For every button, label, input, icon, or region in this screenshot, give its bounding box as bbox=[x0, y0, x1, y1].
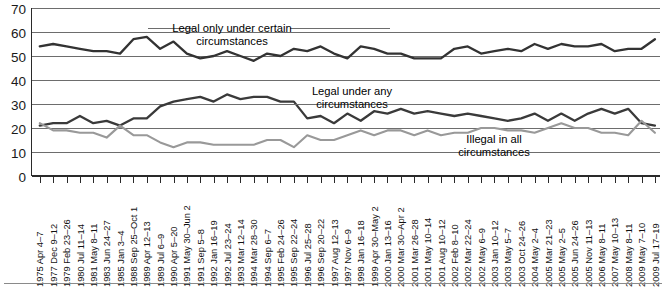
x-axis-tick-label: 1993 Mar 12–14 bbox=[236, 219, 246, 287]
x-axis-tick-label: 2002 May 6–9 bbox=[477, 228, 487, 287]
x-axis-tick-label: 2008 May 8–11 bbox=[624, 224, 634, 287]
x-axis-tick-label: 1994 Mar 28–30 bbox=[249, 219, 259, 287]
x-axis-tick-label: 2007 May 10–13 bbox=[610, 218, 620, 287]
y-axis-tick-label: 60 bbox=[11, 26, 26, 41]
x-axis-tick-label: 2000 Jan 13–16 bbox=[383, 220, 393, 287]
line-chart: 010203040506070 1975 Apr 4–71977 Dec 9–1… bbox=[0, 0, 666, 291]
x-axis-tick-label: 2000 Mar 30–Apr 2 bbox=[396, 207, 406, 287]
annotations-group: Legal only under certaincircumstancesLeg… bbox=[172, 22, 530, 158]
x-axis-tick-label: 1995 Feb 24–26 bbox=[276, 219, 286, 287]
x-axis-tick-label: 2001 Mar 26–28 bbox=[410, 219, 420, 287]
x-axis-tick-label: 2005 Jun 24–26 bbox=[570, 220, 580, 287]
x-axis-tick-label: 1979 Feb 23–26 bbox=[62, 219, 72, 287]
x-axis-tick-label: 2003 Jan 10–12 bbox=[490, 220, 500, 287]
x-axis-tick-label: 2003 Oct 24–26 bbox=[517, 221, 527, 287]
x-axis-tick-label: 1983 Jun 24–27 bbox=[102, 220, 112, 287]
x-axis-tick-label: 1995 Sep 22–24 bbox=[289, 219, 299, 287]
x-axis-tick-label: 1975 Apr 4–7 bbox=[35, 232, 45, 287]
x-axis-labels-group: 1975 Apr 4–71977 Dec 9–121979 Feb 23–261… bbox=[35, 205, 660, 287]
x-axis-tick-label: 1991 May 30–Jun 2 bbox=[182, 205, 192, 287]
x-axis-tick-label: 1980 Jul 11–14 bbox=[76, 224, 86, 287]
x-axis-tick-label: 2005 Mar 21–23 bbox=[544, 219, 554, 287]
y-axis-tick-label: 20 bbox=[11, 122, 26, 137]
x-axis-tick-label: 2009 Jul 17–19 bbox=[651, 223, 661, 287]
x-axis-tick-label: 1992 Jul 23–24 bbox=[223, 223, 233, 287]
series-line-3 bbox=[40, 121, 655, 147]
x-axis-tick-label: 2005 Nov 11–13 bbox=[584, 219, 594, 287]
x-axis-tick-label: 1997 Nov 6–9 bbox=[343, 229, 353, 287]
annot-legal-any: Legal under anycircumstances bbox=[312, 85, 393, 110]
x-axis-tick-label: 1992 Jan 16–19 bbox=[209, 220, 219, 287]
x-axis-tick-label: 1990 Apr 5–20 bbox=[169, 227, 179, 287]
x-axis-tick-label: 2004 May 2–4 bbox=[530, 228, 540, 287]
x-axis-tick-label: 2002 Mar 22–24 bbox=[463, 219, 473, 287]
x-axis-tick-label: 1996 Sep 20–22 bbox=[316, 219, 326, 287]
y-axis-tick-label: 70 bbox=[11, 2, 26, 17]
x-axis-tick-label: 1999 Apr 30–May 2 bbox=[370, 206, 380, 287]
x-axis-tick-label: 1991 Sep 5–8 bbox=[196, 229, 206, 287]
annot-legal-certain: Legal only under certaincircumstances bbox=[172, 22, 291, 47]
x-axis-tick-label: 1989 Jul 6–9 bbox=[156, 234, 166, 287]
x-axis-tick-label: 1994 Sep 6–7 bbox=[263, 229, 273, 287]
x-axis-tick-label: 1998 Jan 16–18 bbox=[356, 220, 366, 287]
x-axis-tick-label: 1997 Aug 12–13 bbox=[330, 219, 340, 287]
y-axis-tick-label: 0 bbox=[18, 170, 26, 185]
x-axis-tick-label: 2001 Aug 10–12 bbox=[437, 219, 447, 287]
x-axis-tick-label: 1985 Jan 3–4 bbox=[116, 231, 126, 287]
x-axis-tick-label: 2005 May 2–5 bbox=[557, 228, 567, 287]
x-axis-tick-label: 2009 May 7–10 bbox=[637, 223, 647, 287]
y-axis-tick-label: 30 bbox=[11, 98, 26, 113]
y-axis-tick-label: 40 bbox=[11, 74, 26, 89]
annot-illegal-all: Illegal in allcircumstances bbox=[458, 133, 530, 158]
x-axis-tick-label: 2003 May 5–7 bbox=[503, 228, 513, 287]
x-axis-tick-label: 1981 May 8–11 bbox=[89, 224, 99, 287]
y-axis-labels-group: 010203040506070 bbox=[11, 2, 26, 185]
x-axis-ticks-group bbox=[41, 176, 656, 183]
x-axis-tick-label: 2002 Feb 8–10 bbox=[450, 224, 460, 287]
chart-canvas: 010203040506070 1975 Apr 4–71977 Dec 9–1… bbox=[0, 0, 666, 291]
y-axis-tick-label: 50 bbox=[11, 50, 26, 65]
x-axis-tick-label: 1989 Apr 12–13 bbox=[142, 221, 152, 287]
x-axis-tick-label: 1996 Jul 25–28 bbox=[303, 223, 313, 287]
x-axis-tick-label: 2006 May 8–11 bbox=[597, 224, 607, 287]
x-axis-tick-label: 1977 Dec 9–12 bbox=[49, 224, 59, 287]
x-axis-tick-label: 1988 Sep 25–Oct 1 bbox=[129, 207, 139, 287]
y-axis-tick-label: 10 bbox=[11, 146, 26, 161]
x-axis-tick-label: 2001 May 10–14 bbox=[423, 218, 433, 287]
series-line-1 bbox=[40, 37, 655, 61]
